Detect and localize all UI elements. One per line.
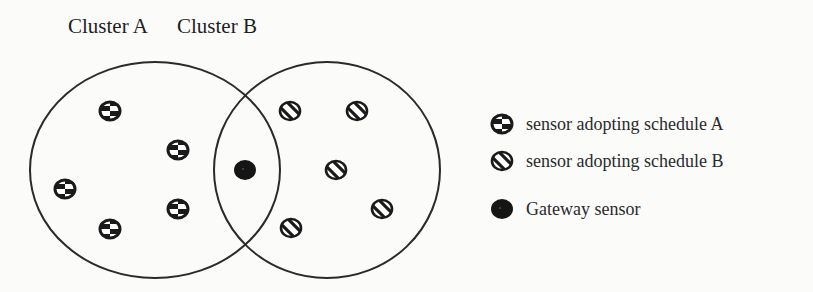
sensor-b-icon [279, 216, 303, 240]
legend-item-schedule-b: sensor adopting schedule B [490, 149, 723, 173]
checker-sensor-icon [490, 113, 514, 135]
cluster-a-label: Cluster A [68, 14, 148, 39]
sensor-a-icon [168, 199, 188, 219]
legend-label: sensor adopting schedule A [526, 114, 723, 135]
gateway-sensor-icon [490, 198, 514, 220]
sensor-b-icon [324, 158, 348, 182]
sensor-a-icon [100, 219, 120, 239]
sensor-a-icon [168, 140, 188, 160]
sensor-b-icon [345, 99, 369, 123]
cluster-diagram [0, 0, 813, 292]
legend-item-schedule-a: sensor adopting schedule A [490, 112, 723, 136]
sensor-a-icon [100, 101, 120, 121]
legend-label: sensor adopting schedule B [526, 151, 723, 172]
gateway-sensor-icon [234, 160, 256, 180]
legend-item-gateway: Gateway sensor [490, 197, 640, 221]
sensor-a-icon [55, 179, 75, 199]
cluster-b-label: Cluster B [177, 14, 257, 39]
sensor-b-icon [370, 197, 394, 221]
sensor-b-icon [278, 99, 302, 123]
legend-label: Gateway sensor [526, 199, 640, 220]
striped-sensor-icon [490, 150, 514, 172]
